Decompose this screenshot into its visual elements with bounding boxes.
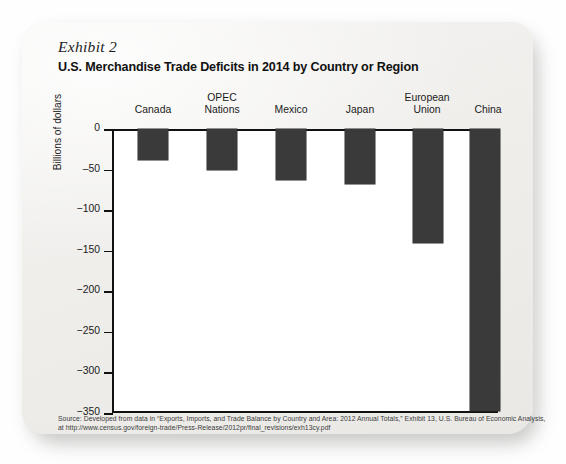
x-label-european-union: European Union (392, 92, 462, 115)
y-tick-label-3: −150 (77, 244, 100, 255)
x-label-china: China (462, 104, 514, 116)
y-tick-6: −300 (104, 372, 113, 374)
source-line-1: Source: Developed from data in “Exports,… (58, 414, 518, 423)
bar-china (470, 129, 500, 411)
y-tick-label-6: −300 (77, 365, 100, 376)
chart-plot: Billions of dollars 0 ‒50 −100 −150 −200… (58, 82, 500, 412)
source-note: Source: Developed from data in “Exports,… (58, 414, 518, 433)
exhibit-card: Exhibit 2 U.S. Merchandise Trade Deficit… (22, 22, 533, 434)
source-line-2: at http://www.census.gov/foreign-trade/P… (58, 423, 518, 432)
bar-canada (138, 129, 168, 160)
bar-mexico (276, 129, 306, 180)
y-tick-1: ‒50 (104, 170, 113, 172)
y-tick-label-1: ‒50 (83, 163, 100, 174)
y-tick-label-5: −250 (77, 325, 100, 336)
page-title: U.S. Merchandise Trade Deficits in 2014 … (58, 60, 419, 74)
exhibit-label: Exhibit 2 (58, 38, 117, 56)
screenshot-page: Exhibit 2 U.S. Merchandise Trade Deficit… (0, 0, 566, 464)
y-tick-label-4: −200 (77, 284, 100, 295)
x-label-japan: Japan (327, 104, 393, 116)
x-label-opec: OPEC Nations (189, 92, 255, 115)
bar-european-union (413, 129, 443, 243)
y-tick-0: 0 (104, 129, 113, 131)
bar-opec-nations (207, 129, 237, 170)
bar-japan (345, 129, 375, 184)
x-label-mexico: Mexico (258, 104, 324, 116)
y-axis-label: Billions of dollars (52, 62, 63, 202)
x-label-canada: Canada (120, 104, 186, 116)
y-tick-label-2: −100 (77, 203, 100, 214)
y-tick-5: −250 (104, 332, 113, 334)
y-tick-label-0: 0 (94, 122, 100, 133)
y-tick-4: −200 (104, 291, 113, 293)
y-tick-2: −100 (104, 210, 113, 212)
y-tick-3: −150 (104, 251, 113, 253)
